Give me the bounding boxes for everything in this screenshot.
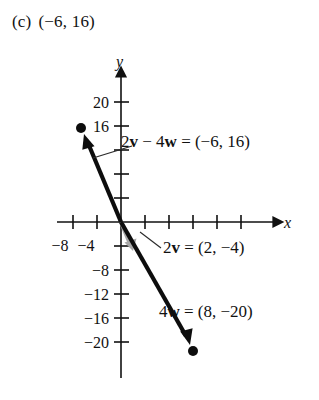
x-tick-label--8: −8 [51,237,68,254]
y-tick-label--20: −20 [84,334,109,351]
x-tick-label--4: −4 [77,237,94,254]
vector-label-2v-minus-4w-part-0: 2 [121,132,130,151]
y-tick-label--16: −16 [84,310,109,327]
y-tick-label-20: 20 [93,94,109,111]
coordinate-plane-svg: x y −8 −4 20 16 −8 −12 −16 −20 [0,0,319,400]
vector-label-2v-part-2: = (2, −4) [180,238,245,257]
vector-label-2v-part-0: 2 [163,238,172,257]
y-axis-label: y [114,53,124,71]
y-tick-label--12: −12 [84,286,109,303]
vector-label-2v-minus-4w: 2v − 4w = (−6, 16) [121,132,250,151]
vector-diagram: x y −8 −4 20 16 −8 −12 −16 −20 [0,0,319,400]
leader-line-2v [140,232,161,248]
vector-label-2v-minus-4w-part-4: = (−6, 16) [177,132,250,151]
x-axis-label: x [283,214,291,231]
vector-label-2v: 2v = (2, −4) [163,238,245,257]
vector-4w-endpoint-dot [188,346,198,356]
vector-label-4w-part-1: w [168,302,181,321]
vector-label-4w-part-2: = (8, −20) [180,302,253,321]
vector-2v-minus-4w-arrowhead [82,134,94,150]
vector-label-2v-minus-4w-part-2: − 4 [138,132,165,151]
vector-2v-minus-4w-endpoint-dot [76,123,86,133]
vector-2v-minus-4w [76,123,121,222]
y-tick-label--8: −8 [92,262,109,279]
y-tick-label-16: 16 [93,118,109,135]
vector-label-4w: 4w = (8, −20) [159,302,253,321]
vector-label-2v-minus-4w-part-3: w [165,132,178,151]
